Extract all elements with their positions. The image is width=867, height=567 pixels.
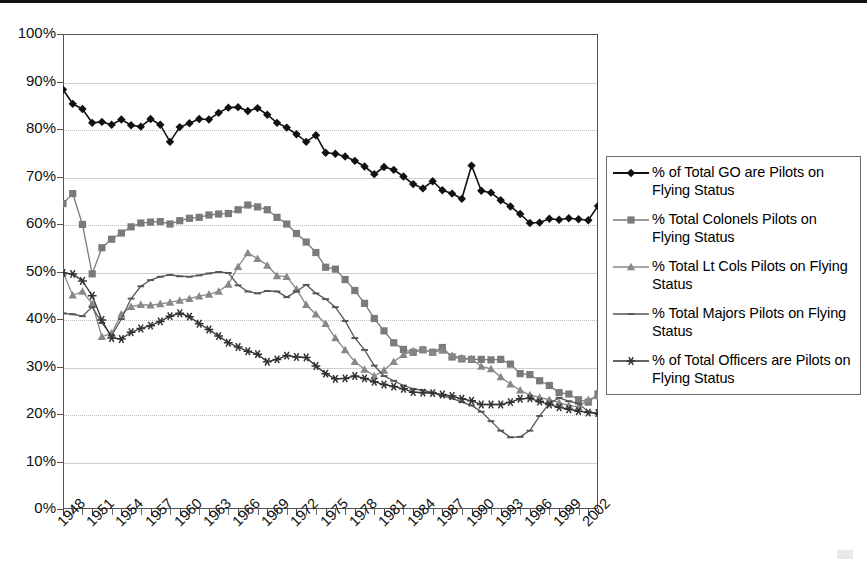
- diamond-marker-icon: [611, 164, 651, 182]
- star-marker-icon: [380, 381, 389, 389]
- y-axis-tick-text: 100%: [18, 24, 63, 41]
- legend-key: [611, 305, 651, 323]
- y-axis-tick-text: 40%: [26, 309, 63, 326]
- y-axis-tick-text: 10%: [26, 452, 63, 469]
- dash-marker-icon: [556, 397, 563, 399]
- dash-marker-icon: [611, 305, 651, 323]
- diamond-marker-icon: [477, 187, 485, 195]
- star-marker-icon: [516, 395, 525, 403]
- dash-marker-icon: [322, 298, 329, 300]
- dash-marker-icon: [79, 315, 86, 317]
- dash-marker-icon: [137, 285, 144, 287]
- square-marker-icon: [244, 201, 251, 208]
- square-marker-icon: [118, 229, 125, 236]
- dash-marker-icon: [497, 430, 504, 432]
- square-marker-icon: [303, 238, 310, 245]
- legend-item[interactable]: % of Total GO are Pilots on Flying Statu…: [611, 163, 856, 201]
- dash-marker-icon: [69, 313, 76, 315]
- legend-key: [611, 352, 651, 370]
- legend-item[interactable]: % Total Lt Cols Pilots on Flying Status: [611, 257, 856, 295]
- diamond-marker-icon: [244, 107, 252, 115]
- dash-marker-icon: [342, 320, 349, 322]
- diamond-marker-icon: [467, 161, 475, 169]
- square-marker-icon: [351, 287, 358, 294]
- dash-marker-icon: [89, 306, 96, 308]
- diamond-marker-icon: [331, 150, 339, 158]
- dash-marker-icon: [186, 276, 193, 278]
- star-marker-icon: [627, 357, 636, 365]
- legend-item-label: % of Total Officers are Pilots on Flying…: [651, 351, 856, 387]
- dash-marker-icon: [488, 420, 495, 422]
- star-marker-icon: [506, 398, 515, 406]
- legend-item-label: % Total Colonels Pilots on Flying Status: [651, 210, 856, 246]
- y-axis-tick-label: 20%: [0, 404, 63, 422]
- square-marker-icon: [380, 327, 387, 334]
- square-marker-icon: [497, 356, 504, 363]
- triangle-marker-icon: [224, 280, 232, 288]
- legend-item-label: % Total Lt Cols Pilots on Flying Status: [651, 257, 856, 293]
- square-marker-icon: [341, 276, 348, 283]
- legend-item[interactable]: % of Total Officers are Pilots on Flying…: [611, 351, 856, 389]
- square-marker-icon: [283, 220, 290, 227]
- legend-item[interactable]: % Total Majors Pilots on Flying Status: [611, 304, 856, 342]
- square-marker-icon: [147, 219, 154, 226]
- square-marker-icon: [390, 339, 397, 346]
- dash-marker-icon: [381, 375, 388, 377]
- dash-marker-icon: [628, 313, 635, 315]
- dash-marker-icon: [527, 430, 534, 432]
- y-axis-tick-text: 30%: [26, 357, 63, 374]
- y-axis-tick-label: 80%: [0, 119, 63, 137]
- triangle-marker-icon: [302, 301, 310, 309]
- y-axis-tick-text: 60%: [26, 214, 63, 231]
- diamond-marker-icon: [321, 149, 329, 157]
- dash-marker-icon: [225, 272, 232, 274]
- y-axis-tick-label: 40%: [0, 309, 63, 327]
- star-marker-icon: [389, 383, 398, 391]
- diamond-marker-icon: [127, 121, 135, 129]
- triangle-marker-icon: [253, 254, 261, 262]
- diamond-marker-icon: [234, 103, 242, 111]
- star-marker-icon: [88, 292, 97, 300]
- y-axis-tick-text: 50%: [26, 262, 63, 279]
- triangle-marker-icon: [263, 261, 271, 269]
- square-marker-icon: [627, 216, 634, 223]
- square-marker-icon: [157, 218, 164, 225]
- diamond-marker-icon: [176, 123, 184, 131]
- star-marker-icon: [282, 352, 291, 360]
- triangle-marker-icon: [370, 372, 378, 380]
- dash-marker-icon: [303, 284, 310, 286]
- star-marker-icon: [292, 353, 301, 361]
- legend-item[interactable]: % Total Colonels Pilots on Flying Status: [611, 210, 856, 248]
- square-marker-icon: [273, 214, 280, 221]
- dash-marker-icon: [283, 296, 290, 298]
- y-axis-tick-label: 60%: [0, 214, 63, 232]
- dash-marker-icon: [332, 306, 339, 308]
- square-marker-icon: [611, 211, 651, 229]
- star-marker-icon: [166, 312, 175, 320]
- square-marker-icon: [225, 210, 232, 217]
- y-axis-tick-label: 30%: [0, 357, 63, 375]
- dash-marker-icon: [215, 271, 222, 273]
- square-marker-icon: [215, 210, 222, 217]
- dash-marker-icon: [167, 274, 174, 276]
- dash-marker-icon: [235, 284, 242, 286]
- dash-marker-icon: [313, 292, 320, 294]
- dash-marker-icon: [206, 273, 213, 275]
- diamond-marker-icon: [185, 119, 193, 127]
- square-marker-icon: [127, 223, 134, 230]
- star-marker-icon: [136, 325, 145, 333]
- triangle-marker-icon: [69, 291, 77, 299]
- star-marker-icon: [594, 409, 598, 417]
- square-marker-icon: [322, 264, 329, 271]
- series-line: [63, 90, 598, 223]
- star-marker-icon: [175, 309, 184, 317]
- diamond-marker-icon: [565, 214, 573, 222]
- square-marker-icon: [234, 206, 241, 213]
- series-3: [63, 271, 598, 438]
- square-marker-icon: [517, 370, 524, 377]
- star-marker-icon: [360, 375, 369, 383]
- square-marker-icon: [63, 200, 67, 207]
- square-marker-icon: [565, 390, 572, 397]
- diamond-marker-icon: [627, 169, 635, 177]
- dash-marker-icon: [361, 349, 368, 351]
